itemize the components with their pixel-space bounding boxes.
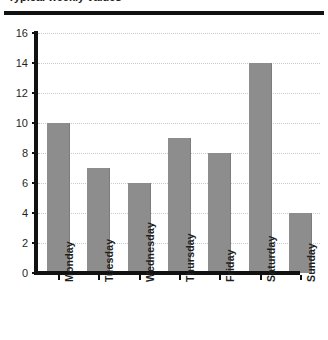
header-divider-rule <box>4 11 324 15</box>
y-axis-tick-label: 16 <box>16 27 28 39</box>
plot-area <box>38 33 320 273</box>
y-axis-tick-mark <box>32 212 38 214</box>
y-axis-tick-mark <box>32 242 38 244</box>
x-axis-tick-mark <box>139 275 141 280</box>
y-axis-tick-label: 2 <box>22 237 28 249</box>
x-axis-label: Monday <box>63 241 75 282</box>
gridline <box>38 33 320 34</box>
y-axis-tick-label: 8 <box>22 147 28 159</box>
header-band: Typical weekly values <box>0 0 328 16</box>
x-axis-tick-mark <box>219 275 221 280</box>
y-axis-tick-label: 14 <box>16 57 28 69</box>
y-axis-tick-mark <box>32 92 38 94</box>
y-axis-tick-mark <box>32 272 38 274</box>
y-axis-tick-label: 4 <box>22 207 28 219</box>
x-axis-label: Saturday <box>265 235 277 282</box>
y-axis-tick-mark <box>32 182 38 184</box>
y-axis-tick-label: 6 <box>22 177 28 189</box>
x-axis-tick-mark <box>260 275 262 280</box>
x-axis-tick-mark <box>300 275 302 280</box>
gridline <box>38 123 320 124</box>
y-axis-tick-mark <box>32 152 38 154</box>
y-axis-tick-mark <box>32 32 38 34</box>
gridline <box>38 63 320 64</box>
gridline <box>38 93 320 94</box>
x-axis-tick-mark <box>179 275 181 280</box>
x-axis-label: Friday <box>224 249 236 282</box>
bar-chart: 0246810121416 MondayTuesdayWednesdayThur… <box>0 16 328 340</box>
y-axis-tick-mark <box>32 122 38 124</box>
x-axis-label: Sunday <box>305 243 317 282</box>
y-axis-tick-label: 12 <box>16 87 28 99</box>
y-axis-tick-label: 0 <box>22 267 28 279</box>
clipped-title-text: Typical weekly values <box>8 0 122 4</box>
x-axis-label: Tuesday <box>103 239 115 282</box>
y-axis-tick-label: 10 <box>16 117 28 129</box>
x-axis-label: Wednesday <box>144 222 156 282</box>
x-axis-label: Thursday <box>184 233 196 282</box>
y-axis-tick-mark <box>32 62 38 64</box>
x-axis-tick-mark <box>98 275 100 280</box>
x-axis-tick-mark <box>58 275 60 280</box>
